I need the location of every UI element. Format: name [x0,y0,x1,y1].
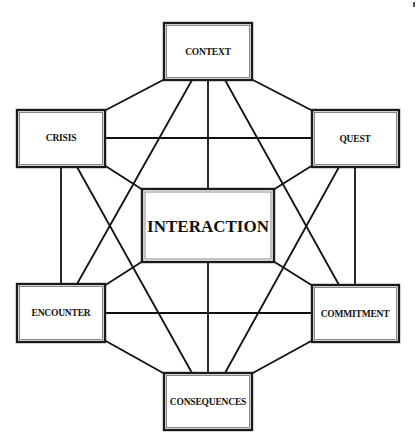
node-encounter: ENCOUNTER [17,284,105,342]
node-label-encounter: ENCOUNTER [32,308,91,318]
node-context: CONTEXT [164,23,252,80]
node-label-commitment: COMMITMENT [321,309,391,319]
edge-commitment-consequences [251,340,313,374]
node-label-quest: QUEST [339,134,371,144]
edge-encounter-consequences [104,340,165,374]
edge-interaction-commitment [273,261,313,286]
scan-artifact-mark [413,2,415,7]
node-label-context: CONTEXT [185,47,231,57]
node-crisis: CRISIS [17,110,105,167]
node-interaction: INTERACTION [142,189,274,262]
node-quest: QUEST [312,110,399,167]
interaction-diagram: CONTEXT CRISIS QUEST INTERACTION ENCOUNT… [0,0,416,447]
node-label-crisis: CRISIS [46,133,76,143]
node-commitment: COMMITMENT [312,285,399,342]
edge-context-crisis [104,79,165,111]
node-label-interaction: INTERACTION [147,217,270,236]
node-consequences: CONSEQUENCES [164,373,252,430]
node-label-consequences: CONSEQUENCES [170,397,246,407]
edge-context-quest [251,79,313,111]
